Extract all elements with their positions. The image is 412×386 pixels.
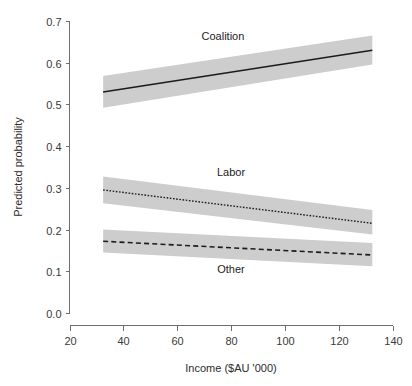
x-tick-marks — [71, 326, 394, 331]
x-tick-label: 120 — [330, 335, 348, 347]
x-tick-labels: 20406080100120140 — [64, 335, 402, 347]
x-tick-label: 100 — [276, 335, 294, 347]
y-tick-label: 0.0 — [46, 308, 61, 320]
x-axis: 20406080100120140 Income ($AU '000) — [64, 326, 402, 375]
y-axis: 0.00.10.20.30.40.50.60.7 Predicted proba… — [12, 16, 70, 320]
series-label-coalition: Coalition — [202, 30, 245, 42]
y-tick-label: 0.4 — [46, 141, 61, 153]
x-tick-label: 40 — [117, 335, 129, 347]
y-tick-label: 0.6 — [46, 58, 61, 70]
confidence-bands — [103, 36, 372, 267]
x-tick-label: 60 — [171, 335, 183, 347]
x-tick-label: 140 — [384, 335, 402, 347]
series-label-other: Other — [217, 263, 245, 275]
x-tick-label: 20 — [64, 335, 76, 347]
y-tick-label: 0.2 — [46, 225, 61, 237]
y-tick-label: 0.1 — [46, 266, 61, 278]
y-tick-label: 0.5 — [46, 99, 61, 111]
y-tick-marks — [66, 22, 70, 314]
y-tick-label: 0.7 — [46, 16, 61, 28]
y-tick-label: 0.3 — [46, 183, 61, 195]
y-tick-labels: 0.00.10.20.30.40.50.60.7 — [46, 16, 61, 320]
chart-container: 0.00.10.20.30.40.50.60.7 Predicted proba… — [0, 0, 412, 386]
series-label-labor: Labor — [217, 166, 245, 178]
predicted-probability-chart: 0.00.10.20.30.40.50.60.7 Predicted proba… — [0, 0, 412, 386]
x-tick-label: 80 — [225, 335, 237, 347]
x-axis-title: Income ($AU '000) — [185, 362, 276, 374]
y-axis-title: Predicted probability — [12, 117, 24, 217]
band-labor — [103, 177, 372, 235]
